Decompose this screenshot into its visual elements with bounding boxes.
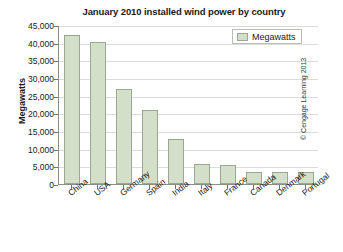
bar bbox=[168, 139, 184, 184]
y-axis-tick-label: 15,000 bbox=[0, 127, 54, 137]
y-axis-tick-label: 25,000 bbox=[0, 92, 54, 102]
y-axis-tick-label: 5,000 bbox=[0, 162, 54, 172]
y-axis-tick-mark bbox=[54, 132, 58, 133]
y-axis-tick-label: 45,000 bbox=[0, 21, 54, 31]
y-axis-tick-mark bbox=[54, 79, 58, 80]
chart-figure: January 2010 installed wind power by cou… bbox=[0, 0, 343, 252]
y-axis-tick-label: 10,000 bbox=[0, 145, 54, 155]
y-axis-tick-label: 20,000 bbox=[0, 109, 54, 119]
y-axis-tick-mark bbox=[54, 114, 58, 115]
y-axis-tick-mark bbox=[54, 150, 58, 151]
bar bbox=[116, 89, 132, 184]
y-axis-tick-mark bbox=[54, 185, 58, 186]
y-axis-tick-mark bbox=[54, 97, 58, 98]
plot-area bbox=[58, 26, 318, 185]
legend-label-megawatts: Megawatts bbox=[252, 32, 296, 42]
bar-series bbox=[59, 26, 318, 184]
y-axis-tick-label: 0 bbox=[0, 180, 54, 190]
y-axis-tick-label: 30,000 bbox=[0, 74, 54, 84]
copyright-notice: © Cengage Learning 2013 bbox=[300, 30, 307, 140]
y-axis-tick-mark bbox=[54, 26, 58, 27]
bar bbox=[64, 35, 80, 184]
y-axis-tick-mark bbox=[54, 44, 58, 45]
legend-swatch-megawatts bbox=[237, 33, 248, 41]
y-axis-tick-mark bbox=[54, 61, 58, 62]
y-axis-tick-label: 35,000 bbox=[0, 56, 54, 66]
bar bbox=[90, 42, 106, 184]
y-axis-tick-label: 40,000 bbox=[0, 39, 54, 49]
chart-title: January 2010 installed wind power by cou… bbox=[48, 6, 320, 17]
chart-legend: Megawatts bbox=[232, 29, 302, 44]
y-axis-tick-mark bbox=[54, 167, 58, 168]
